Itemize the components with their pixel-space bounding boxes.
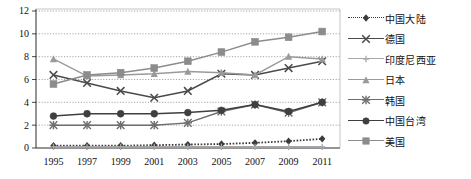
x-axis-label: 2001 xyxy=(144,156,164,167)
x-axis-label: 1995 xyxy=(43,156,63,167)
data-point-marker xyxy=(117,69,124,76)
data-point-marker xyxy=(84,110,91,117)
data-point-marker xyxy=(49,121,57,129)
x-axis-label: 2005 xyxy=(211,156,231,167)
legend-marker-icon xyxy=(347,32,385,46)
data-point-marker xyxy=(362,96,370,104)
legend-item-德国[interactable]: 德国 xyxy=(347,29,471,50)
legend-symbol-triangle-icon xyxy=(359,73,373,87)
data-point-marker xyxy=(151,110,158,117)
data-point-marker xyxy=(363,138,369,144)
legend-marker-icon xyxy=(347,93,385,107)
legend-symbol-diamond-icon xyxy=(359,11,373,25)
data-point-marker xyxy=(184,58,191,65)
legend-label: 韩国 xyxy=(385,93,405,108)
legend-symbol-plus-icon xyxy=(359,52,373,66)
legend-marker-icon xyxy=(347,52,385,66)
data-point-marker xyxy=(218,49,225,56)
chart-legend: 中国大陆德国印度尼西亚日本韩国中国台湾美国 xyxy=(347,8,471,168)
data-point-marker xyxy=(285,144,291,150)
chart-screenshot: 0246810121995199719992001200320052007200… xyxy=(0,0,471,179)
data-point-marker xyxy=(285,108,292,115)
legend-label: 美国 xyxy=(385,134,405,149)
data-point-marker xyxy=(150,121,158,129)
data-point-marker xyxy=(50,81,57,88)
data-point-marker xyxy=(363,56,369,62)
data-point-marker xyxy=(319,99,326,106)
y-axis-label: 4 xyxy=(24,97,29,108)
legend-label: 印度尼西亚 xyxy=(385,52,436,67)
data-point-marker xyxy=(252,101,259,108)
data-point-marker xyxy=(184,109,191,116)
y-axis-label: 10 xyxy=(19,28,29,39)
legend-symbol-square-icon xyxy=(359,134,373,148)
legend-item-韩国[interactable]: 韩国 xyxy=(347,90,471,111)
y-axis-label: 6 xyxy=(24,74,29,85)
data-point-marker xyxy=(252,144,258,150)
legend-label: 中国大陆 xyxy=(385,11,426,26)
data-point-marker xyxy=(50,55,57,62)
chart-svg: 0246810121995199719992001200320052007200… xyxy=(0,0,345,179)
data-point-marker xyxy=(50,113,57,120)
legend-item-印度尼西亚[interactable]: 印度尼西亚 xyxy=(347,49,471,70)
y-axis-label: 8 xyxy=(24,51,29,62)
data-point-marker xyxy=(363,118,369,124)
legend-marker-icon xyxy=(347,134,385,148)
data-point-marker xyxy=(218,107,225,114)
x-axis-label: 2009 xyxy=(279,156,299,167)
data-point-marker xyxy=(84,72,91,79)
data-point-marker xyxy=(252,38,259,45)
legend-item-美国[interactable]: 美国 xyxy=(347,131,471,152)
legend-label: 德国 xyxy=(385,31,405,46)
legend-marker-icon xyxy=(347,11,385,25)
x-axis-label: 2003 xyxy=(178,156,198,167)
data-point-marker xyxy=(363,15,369,22)
legend-item-日本[interactable]: 日本 xyxy=(347,70,471,91)
legend-item-中国台湾[interactable]: 中国台湾 xyxy=(347,111,471,132)
x-axis-label: 1997 xyxy=(77,156,97,167)
legend-marker-icon xyxy=(347,114,385,128)
legend-marker-icon xyxy=(347,73,385,87)
data-point-marker xyxy=(184,119,192,127)
data-point-marker xyxy=(319,28,326,35)
y-axis-label: 0 xyxy=(24,142,29,153)
legend-label: 日本 xyxy=(385,72,405,87)
y-axis-label: 12 xyxy=(19,5,29,16)
data-point-marker xyxy=(362,35,370,43)
data-point-marker xyxy=(151,65,158,72)
legend-symbol-x-icon xyxy=(359,32,373,46)
data-point-marker xyxy=(319,144,325,150)
x-axis-label: 2011 xyxy=(312,156,332,167)
data-point-marker xyxy=(285,34,292,41)
legend-symbol-circle-icon xyxy=(359,114,373,128)
legend-symbol-star-icon xyxy=(359,93,373,107)
data-point-marker xyxy=(362,76,369,83)
x-axis-label: 2007 xyxy=(245,156,265,167)
data-point-marker xyxy=(117,110,124,117)
legend-item-中国大陆[interactable]: 中国大陆 xyxy=(347,8,471,29)
data-point-marker xyxy=(116,121,124,129)
x-axis-label: 1999 xyxy=(111,156,131,167)
data-point-marker xyxy=(319,135,325,142)
data-point-marker xyxy=(83,121,91,129)
y-axis-label: 2 xyxy=(24,120,29,131)
legend-label: 中国台湾 xyxy=(385,113,426,128)
line-chart: 0246810121995199719992001200320052007200… xyxy=(0,0,345,179)
